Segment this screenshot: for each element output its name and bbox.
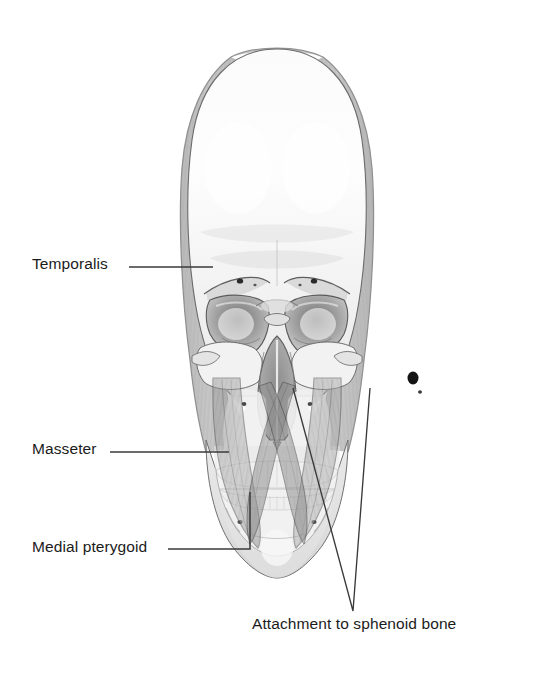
skull-illustration <box>0 0 554 675</box>
label-temporalis: Temporalis <box>32 256 108 272</box>
label-medial-pterygoid: Medial pterygoid <box>32 539 147 555</box>
label-masseter: Masseter <box>32 441 97 457</box>
anatomical-figure <box>0 0 554 675</box>
label-attachment-to-sphenoid-bone: Attachment to sphenoid bone <box>252 616 456 632</box>
